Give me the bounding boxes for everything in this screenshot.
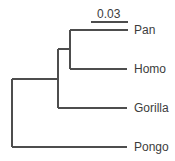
taxon-label-gorilla: Gorilla [134, 101, 169, 115]
taxon-label-homo: Homo [134, 62, 166, 76]
taxon-label-pan: Pan [134, 23, 155, 37]
taxon-label-pongo: Pongo [134, 140, 169, 154]
scale-bar: 0.03 [91, 7, 128, 22]
phylogenetic-tree: 0.03 Pan Homo Gorilla Pongo [0, 0, 175, 161]
scale-bar-label: 0.03 [97, 7, 121, 21]
